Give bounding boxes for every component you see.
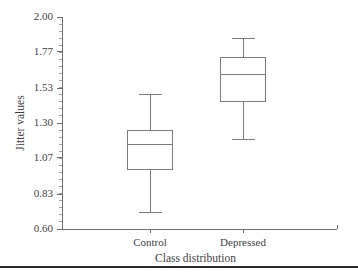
x-axis-title: Class distribution bbox=[155, 252, 236, 264]
box-body bbox=[221, 58, 266, 102]
box-control bbox=[128, 94, 173, 212]
y-tick-label: 0.83 bbox=[34, 187, 54, 199]
y-tick-label: 1.53 bbox=[34, 81, 54, 93]
y-axis bbox=[57, 17, 62, 229]
box-depressed bbox=[221, 38, 266, 139]
y-axis-title: Jitter values bbox=[14, 95, 26, 151]
box-body bbox=[128, 131, 173, 170]
y-tick-label: 2.00 bbox=[34, 10, 54, 22]
x-tick-label-depressed: Depressed bbox=[220, 236, 266, 248]
box-plot-figure: 0.600.831.071.301.531.772.00ControlDepre… bbox=[0, 0, 358, 276]
x-axis bbox=[62, 225, 337, 233]
x-tick-label-control: Control bbox=[133, 236, 167, 248]
box-series bbox=[128, 38, 266, 212]
bottom-horizontal-rule bbox=[0, 266, 358, 268]
y-tick-label: 1.30 bbox=[34, 116, 54, 128]
y-tick-label: 1.07 bbox=[34, 151, 54, 163]
y-tick-label: 1.77 bbox=[34, 45, 54, 57]
box-plot-canvas: 0.600.831.071.301.531.772.00ControlDepre… bbox=[0, 0, 358, 276]
y-tick-label: 0.60 bbox=[34, 222, 54, 234]
